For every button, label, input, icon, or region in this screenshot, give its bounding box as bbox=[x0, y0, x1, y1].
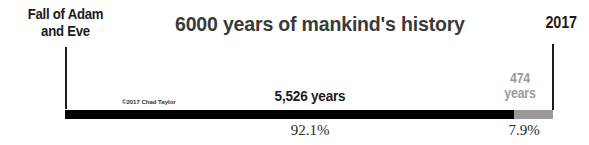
timeline-bar bbox=[65, 110, 553, 119]
minor-segment-percent-label: 7.9% bbox=[494, 121, 554, 139]
timeline-start-label-line2: and Eve bbox=[15, 22, 116, 39]
major-segment-value-label: 5,526 years bbox=[258, 87, 362, 104]
timeline-start-label-line1: Fall of Adam bbox=[15, 5, 116, 22]
copyright-credit: ©2017 Chad Taylor bbox=[122, 98, 176, 106]
timeline-bar-minor-segment bbox=[514, 110, 553, 119]
major-segment-percent-label: 92.1% bbox=[252, 121, 368, 139]
minor-segment-value-label: 474 years bbox=[497, 71, 543, 101]
timeline-end-label: 2017 bbox=[546, 14, 577, 32]
timeline-end-tick bbox=[552, 44, 554, 110]
minor-segment-value-line1: 474 bbox=[497, 71, 543, 86]
timeline-start-label: Fall of Adam and Eve bbox=[15, 5, 116, 39]
minor-segment-value-line2: years bbox=[497, 86, 543, 101]
timeline-bar-major-segment bbox=[65, 110, 514, 119]
timeline-start-tick bbox=[65, 47, 67, 109]
timeline-infographic: Fall of Adam and Eve 6000 years of manki… bbox=[0, 0, 589, 145]
page-title: 6000 years of mankind's history bbox=[175, 12, 465, 36]
